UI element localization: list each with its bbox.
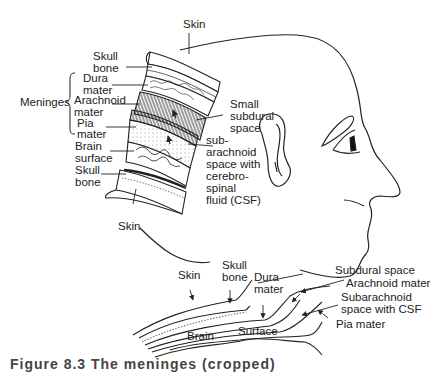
label-subarachnoid-1: sub- xyxy=(206,134,228,146)
label-skull-bone-top-1: Skull xyxy=(93,50,118,62)
label-pia-2: mater xyxy=(77,128,106,140)
label-bottom-subarachnoid-1: Subarachnoid xyxy=(341,291,412,303)
eye-icon xyxy=(322,116,360,153)
label-subarachnoid-6: fluid (CSF) xyxy=(206,194,261,206)
label-subarachnoid-3: space with xyxy=(206,158,260,170)
label-meninges: Meninges xyxy=(20,96,70,108)
label-bottom-skull-1: Skull xyxy=(222,259,247,271)
label-bottom-brain: Brain xyxy=(187,330,214,342)
label-subarachnoid-2: arachnoid xyxy=(206,146,257,158)
label-bottom-skin: Skin xyxy=(178,269,200,281)
label-bottom-arachnoid-mater: Arachnoid mater xyxy=(346,277,430,289)
label-subarachnoid-4: cerebro- xyxy=(206,170,249,182)
label-bottom-skull-2: bone xyxy=(222,271,248,283)
label-small-subdural-2: subdural xyxy=(230,110,274,122)
cross-section-layers xyxy=(133,280,330,357)
cutaway-layers xyxy=(105,52,220,214)
label-bottom-pia-mater: Pia mater xyxy=(336,318,385,330)
label-skin-bottom: Skin xyxy=(118,220,140,232)
label-bottom-dura-2: mater xyxy=(254,283,283,295)
label-small-subdural-3: space xyxy=(230,122,261,134)
label-skull-bone-bottom-1: Skull xyxy=(75,164,100,176)
label-bottom-subarachnoid-2: space with CSF xyxy=(341,303,422,315)
label-small-subdural-1: Small xyxy=(230,98,259,110)
label-subarachnoid-5: spinal xyxy=(206,182,236,194)
label-skin-top: Skin xyxy=(183,18,205,30)
label-brain-surface-1: Brain xyxy=(75,140,102,152)
figure-caption: Figure 8.3 The meninges (cropped) xyxy=(10,356,276,372)
label-brain-surface-2: surface xyxy=(75,152,113,164)
label-skull-bone-bottom-2: bone xyxy=(75,176,101,188)
mouth-icon xyxy=(344,200,364,206)
ear-icon xyxy=(260,114,291,186)
label-dura-1: Dura xyxy=(83,72,108,84)
label-bottom-surface: Surface xyxy=(238,325,278,337)
label-bottom-subdural-space: Subdural space xyxy=(335,264,415,276)
label-arachnoid-1: Arachnoid xyxy=(74,94,126,106)
label-bottom-dura-1: Dura xyxy=(254,271,279,283)
